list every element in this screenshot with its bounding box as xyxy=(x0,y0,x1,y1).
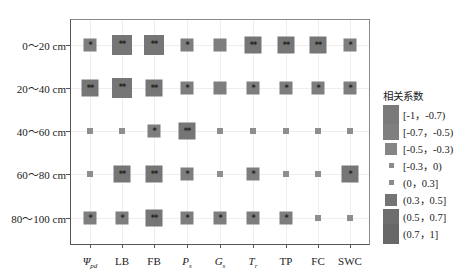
correlation-cell: ** xyxy=(245,37,262,54)
legend-label: (0.7，1] xyxy=(403,226,438,241)
significance-marker: ** xyxy=(283,41,289,49)
significance-marker: * xyxy=(185,170,188,178)
correlation-cell: * xyxy=(181,212,194,225)
significance-marker: * xyxy=(284,214,287,222)
significance-marker: ** xyxy=(151,84,157,92)
correlation-cell: ** xyxy=(114,166,131,183)
x-axis-label: LB xyxy=(115,255,129,267)
legend-item: (0.5，0.7] xyxy=(383,208,453,225)
correlation-cell: * xyxy=(116,212,129,225)
correlation-cell: ** xyxy=(146,166,163,183)
correlation-cell: * xyxy=(247,168,260,181)
correlation-cell xyxy=(119,128,125,134)
legend-item: [-0.3，0) xyxy=(383,157,453,174)
correlation-cell: * xyxy=(312,82,325,95)
significance-marker: ** xyxy=(119,170,125,178)
legend-swatch xyxy=(383,105,399,125)
significance-marker: * xyxy=(348,41,351,49)
significance-marker: * xyxy=(152,127,155,135)
correlation-cell xyxy=(87,171,93,177)
legend-label: (0.3，0.5] xyxy=(403,192,446,207)
x-axis-label: Ps xyxy=(182,255,191,270)
correlation-cell xyxy=(214,82,227,95)
correlation-cell xyxy=(87,128,93,134)
correlation-cell: * xyxy=(247,82,260,95)
significance-marker: ** xyxy=(119,84,125,92)
correlation-cell: ** xyxy=(112,78,132,98)
correlation-cell: ** xyxy=(146,210,163,227)
significance-marker: * xyxy=(348,84,351,92)
legend-swatch xyxy=(383,224,399,244)
x-tick xyxy=(122,245,123,248)
x-tick xyxy=(253,245,254,248)
significance-marker: ** xyxy=(250,41,256,49)
y-axis-label: 60～80 cm xyxy=(17,166,66,182)
legend-swatch xyxy=(385,143,397,155)
legend-label: [-0.7，-0.5) xyxy=(403,124,453,139)
significance-marker: * xyxy=(185,41,188,49)
significance-marker: ** xyxy=(151,41,157,49)
significance-marker: * xyxy=(88,214,91,222)
legend-item: (0.3，0.5] xyxy=(383,191,453,208)
x-tick xyxy=(90,245,91,248)
correlation-cell: * xyxy=(84,212,97,225)
legend-item: (0.7，1] xyxy=(383,225,453,242)
significance-marker: * xyxy=(88,41,91,49)
significance-marker: * xyxy=(120,214,123,222)
correlation-cell: ** xyxy=(144,35,164,55)
y-axis-label: 80～100 cm xyxy=(11,210,66,226)
correlation-cell: * xyxy=(342,166,359,183)
x-tick xyxy=(350,245,351,248)
legend-item: [-0.7，-0.5) xyxy=(383,123,453,140)
x-tick xyxy=(318,245,319,248)
correlation-cell: ** xyxy=(278,37,295,54)
correlation-cell xyxy=(214,39,227,52)
significance-marker: ** xyxy=(87,84,93,92)
legend-swatch xyxy=(389,180,394,185)
significance-marker: * xyxy=(316,84,319,92)
correlation-cell: * xyxy=(181,39,194,52)
correlation-cell xyxy=(283,128,289,134)
legend-label: [-1，-0.7) xyxy=(403,107,445,122)
significance-marker: * xyxy=(348,170,351,178)
correlation-cell: ** xyxy=(310,37,327,54)
significance-marker: ** xyxy=(151,170,157,178)
legend: 相关系数 [-1，-0.7)[-0.7，-0.5)[-0.5，-0.3)[-0.… xyxy=(383,88,453,242)
significance-marker: ** xyxy=(184,127,190,135)
correlation-cell xyxy=(283,171,289,177)
legend-label: (0.5，0.7] xyxy=(403,209,446,224)
legend-title: 相关系数 xyxy=(383,88,453,103)
correlation-cell: ** xyxy=(82,80,99,97)
correlation-cell xyxy=(217,171,223,177)
correlation-cell: ** xyxy=(179,123,196,140)
legend-items: [-1，-0.7)[-0.7，-0.5)[-0.5，-0.3)[-0.3，0)(… xyxy=(383,106,453,242)
significance-marker: * xyxy=(218,214,221,222)
correlation-cell xyxy=(250,128,256,134)
correlation-cell: * xyxy=(344,39,357,52)
x-axis-label: FB xyxy=(147,255,160,267)
legend-label: [-0.3，0) xyxy=(403,158,442,173)
significance-marker: ** xyxy=(315,41,321,49)
correlation-cell: ** xyxy=(146,80,163,97)
correlation-cell: * xyxy=(181,168,194,181)
legend-swatch xyxy=(385,194,397,206)
correlation-cell: * xyxy=(280,212,293,225)
x-axis-label: Tr xyxy=(249,255,258,270)
significance-marker: * xyxy=(251,214,254,222)
correlation-cell: * xyxy=(344,82,357,95)
significance-marker: * xyxy=(185,84,188,92)
correlation-cell: ** xyxy=(112,35,132,55)
significance-marker: ** xyxy=(151,214,157,222)
x-axis-label: TP xyxy=(280,255,293,267)
x-axis-label: Gs xyxy=(215,255,226,270)
correlation-cell: * xyxy=(280,82,293,95)
legend-swatch xyxy=(389,163,394,168)
correlation-cell: * xyxy=(247,212,260,225)
legend-item: [-1，-0.7) xyxy=(383,106,453,123)
correlation-cell xyxy=(315,128,321,134)
significance-marker: * xyxy=(251,84,254,92)
x-axis-label: FC xyxy=(311,255,324,267)
legend-item: (0，0.3] xyxy=(383,174,453,191)
significance-marker: * xyxy=(251,170,254,178)
x-axis-label: SWC xyxy=(338,255,362,267)
